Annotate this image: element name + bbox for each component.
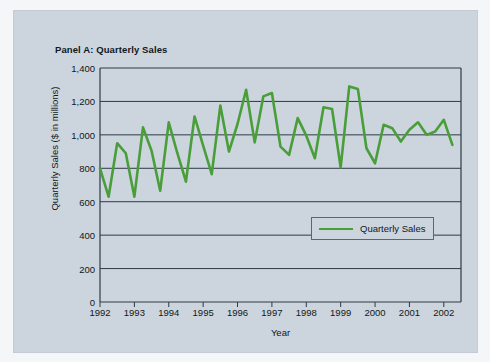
- series-quarterly-sales: [100, 86, 452, 196]
- gridlines: [100, 68, 461, 302]
- x-tick-label: 1994: [158, 307, 179, 318]
- chart-panel: Panel A: Quarterly Sales Quarterly Sales…: [13, 10, 478, 353]
- panel-title: Panel A: Quarterly Sales: [55, 44, 167, 55]
- y-tick-label: 0: [90, 297, 95, 308]
- y-tick-label: 600: [79, 196, 95, 207]
- y-tick-label: 400: [79, 230, 95, 241]
- x-axis-tick-labels: 1992199319941995199619971998199920002001…: [100, 307, 461, 323]
- axis-lines: [100, 68, 461, 302]
- x-tick-label: 1996: [227, 307, 248, 318]
- x-tick-label: 1998: [296, 307, 317, 318]
- legend-item-label: Quarterly Sales: [360, 223, 425, 234]
- y-tick-label: 1,000: [71, 129, 95, 140]
- figure-root: Panel A: Quarterly Sales Quarterly Sales…: [0, 0, 490, 362]
- x-tick-label: 2000: [364, 307, 385, 318]
- y-tick-label: 1,400: [71, 63, 95, 74]
- x-tick-label: 2002: [433, 307, 454, 318]
- y-tick-label: 800: [79, 163, 95, 174]
- x-tick-label: 2001: [399, 307, 420, 318]
- x-tick-label: 1992: [89, 307, 110, 318]
- plot-area: [100, 68, 461, 302]
- chart-legend: Quarterly Sales: [311, 217, 434, 240]
- x-tick-label: 1999: [330, 307, 351, 318]
- y-tick-label: 1,200: [71, 96, 95, 107]
- y-axis-tick-labels: 02004006008001,0001,2001,400: [54, 68, 95, 302]
- x-tick-label: 1995: [193, 307, 214, 318]
- y-tick-label: 200: [79, 263, 95, 274]
- line-chart-svg: [100, 68, 461, 302]
- x-tick-label: 1997: [261, 307, 282, 318]
- x-axis-title: Year: [100, 327, 461, 338]
- legend-line-icon: [319, 228, 353, 230]
- x-tick-label: 1993: [124, 307, 145, 318]
